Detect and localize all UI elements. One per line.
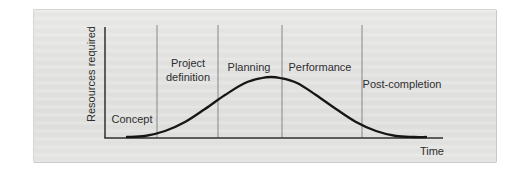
phase-label-concept: Concept bbox=[112, 112, 153, 126]
phase-label-post-completion: Post-completion bbox=[363, 77, 442, 91]
phase-label-planning: Planning bbox=[228, 60, 271, 74]
phase-label-performance: Performance bbox=[289, 60, 352, 74]
phase-label-project-definition: Project definition bbox=[156, 56, 220, 84]
figure-canvas: Resources required Concept Project defin… bbox=[0, 0, 522, 184]
y-axis-label: Resources required bbox=[84, 26, 98, 122]
x-axis-label: Time bbox=[420, 144, 444, 158]
